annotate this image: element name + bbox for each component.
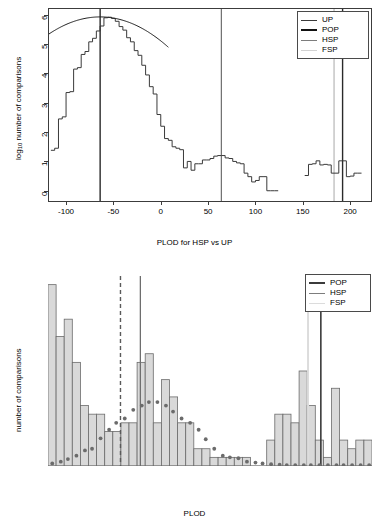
bottom-y-axis-label: number of comparisons bbox=[14, 348, 23, 432]
overlay-point bbox=[221, 454, 225, 458]
top-y-axis-label: log10 number of comparisons bbox=[14, 57, 23, 160]
legend-item-fsp: FSP bbox=[309, 298, 366, 308]
top-ytick-label: 1 bbox=[40, 162, 49, 166]
overlay-point bbox=[180, 417, 184, 421]
top-xtick-label: -100 bbox=[48, 207, 84, 216]
top-plot-panel: 0123456 log10 number of comparisons -100… bbox=[0, 0, 389, 265]
bar bbox=[161, 380, 169, 466]
bar bbox=[80, 406, 88, 466]
overlay-point bbox=[212, 447, 216, 451]
top-legend: UPPOPHSPFSP bbox=[297, 11, 369, 59]
bar bbox=[340, 440, 348, 466]
top-xtick bbox=[208, 201, 209, 205]
bar bbox=[105, 431, 113, 466]
top-xtick-label: -50 bbox=[95, 207, 131, 216]
bar bbox=[194, 449, 202, 466]
top-x-axis-label: PLOD for HSP vs UP bbox=[0, 238, 389, 247]
legend-swatch-fsp bbox=[309, 303, 325, 304]
top-xtick bbox=[255, 201, 256, 205]
legend-item-up: UP bbox=[301, 15, 364, 25]
overlay-point bbox=[75, 454, 79, 458]
bar bbox=[178, 423, 186, 466]
legend-swatch-fsp bbox=[301, 50, 317, 51]
legend-label: UP bbox=[322, 15, 333, 25]
series-pop-fit bbox=[49, 17, 168, 47]
bar bbox=[137, 362, 145, 466]
top-xtick bbox=[350, 201, 351, 205]
bar bbox=[267, 440, 275, 466]
legend-swatch-hsp bbox=[309, 293, 325, 294]
legend-item-fsp: FSP bbox=[301, 45, 364, 55]
legend-swatch-pop bbox=[301, 29, 317, 31]
overlay-point bbox=[50, 462, 54, 466]
overlay-point bbox=[254, 461, 258, 465]
overlay-point bbox=[83, 449, 87, 453]
bar bbox=[72, 362, 80, 466]
bar bbox=[356, 440, 364, 466]
overlay-point bbox=[269, 462, 273, 466]
bar bbox=[218, 457, 226, 466]
bar bbox=[153, 423, 161, 466]
overlay-point bbox=[66, 457, 70, 461]
top-ytick-label: 5 bbox=[40, 45, 49, 49]
top-xtick bbox=[113, 201, 114, 205]
top-ytick-label: 0 bbox=[40, 191, 49, 195]
overlay-point bbox=[204, 437, 208, 441]
legend-swatch-pop bbox=[309, 282, 325, 284]
legend-item-hsp: HSP bbox=[309, 288, 366, 298]
top-xtick-label: 100 bbox=[237, 207, 273, 216]
overlay-point bbox=[99, 436, 103, 440]
legend-label: FSP bbox=[330, 298, 346, 308]
bar bbox=[291, 423, 299, 466]
bar bbox=[186, 423, 194, 466]
overlay-point bbox=[156, 400, 160, 404]
overlay-point bbox=[147, 400, 151, 404]
bar bbox=[332, 388, 340, 466]
bottom-x-axis-label: PLOD bbox=[0, 509, 389, 518]
legend-item-pop: POP bbox=[309, 278, 366, 288]
bar bbox=[202, 449, 210, 466]
legend-swatch-hsp bbox=[301, 40, 317, 41]
figure-root: 0123456 log10 number of comparisons -100… bbox=[0, 0, 389, 529]
bar bbox=[364, 440, 372, 466]
legend-label: POP bbox=[330, 278, 347, 288]
overlay-point bbox=[164, 404, 168, 408]
top-ytick-label: 3 bbox=[40, 103, 49, 107]
top-ytick-label: 6 bbox=[40, 15, 49, 19]
top-xtick bbox=[66, 201, 67, 205]
bar bbox=[315, 440, 323, 466]
bar bbox=[129, 423, 137, 466]
legend-item-pop: POP bbox=[301, 25, 364, 35]
bar bbox=[56, 336, 64, 466]
overlay-point bbox=[171, 410, 175, 414]
bar bbox=[170, 397, 178, 466]
bar bbox=[283, 414, 291, 466]
bar bbox=[64, 319, 72, 466]
bar bbox=[89, 414, 97, 466]
bar bbox=[275, 414, 283, 466]
top-xtick bbox=[303, 201, 304, 205]
legend-label: POP bbox=[322, 25, 339, 35]
overlay-point bbox=[261, 462, 265, 466]
legend-label: FSP bbox=[322, 45, 338, 55]
series-UP bbox=[51, 17, 278, 191]
legend-swatch-up bbox=[301, 20, 317, 21]
bar bbox=[210, 457, 218, 466]
overlay-point bbox=[140, 404, 144, 408]
overlay-point bbox=[228, 455, 232, 459]
bottom-legend: POPHSPFSP bbox=[305, 274, 371, 312]
bar bbox=[121, 423, 129, 466]
overlay-point bbox=[123, 417, 127, 421]
top-xtick-label: 50 bbox=[190, 207, 226, 216]
top-xtick-label: 0 bbox=[143, 207, 179, 216]
overlay-point bbox=[90, 447, 94, 451]
top-xtick bbox=[161, 201, 162, 205]
overlay-point bbox=[245, 460, 249, 464]
bar bbox=[48, 285, 56, 466]
overlay-point bbox=[188, 421, 192, 425]
overlay-point bbox=[237, 456, 241, 460]
top-xtick-label: 150 bbox=[285, 207, 321, 216]
top-xtick-label: 200 bbox=[332, 207, 368, 216]
legend-label: HSP bbox=[322, 35, 338, 45]
bar bbox=[113, 431, 121, 466]
